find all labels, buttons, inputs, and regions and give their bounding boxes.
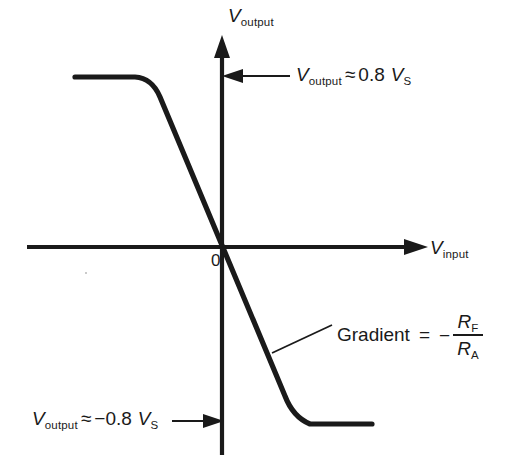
transfer-characteristic-figure: Voutput Vinput 0 Voutput≈0.8VS Voutput≈−… bbox=[0, 0, 516, 472]
gradient-denominator: RA bbox=[457, 336, 479, 358]
gradient-annotation: Gradient = − RF RA bbox=[337, 312, 483, 358]
y-axis-arrowhead bbox=[214, 35, 230, 58]
top-annotation-subscript: output bbox=[309, 75, 342, 87]
x-axis-symbol: V bbox=[430, 237, 443, 258]
bottom-annotation-value: −0.8 bbox=[94, 408, 132, 429]
gradient-denominator-symbol: R bbox=[457, 338, 471, 359]
x-axis-arrowhead bbox=[404, 239, 428, 255]
top-arrow-head bbox=[222, 69, 243, 83]
top-annotation-symbol: V bbox=[296, 64, 309, 85]
bottom-annotation-subscript: output bbox=[45, 419, 78, 431]
bottom-annotation-supply-subscript: S bbox=[151, 419, 159, 431]
top-annotation-approx: ≈ bbox=[342, 64, 358, 85]
top-annotation-supply-symbol: V bbox=[385, 64, 404, 85]
scan-speck bbox=[85, 272, 87, 274]
y-axis-subscript: output bbox=[241, 16, 274, 28]
x-axis-subscript: input bbox=[443, 248, 469, 260]
gradient-numerator-subscript: F bbox=[471, 322, 478, 334]
y-axis-label: Voutput bbox=[228, 6, 274, 25]
top-annotation-arrow bbox=[222, 69, 290, 83]
gradient-leader-line bbox=[272, 325, 332, 353]
origin-label: 0 bbox=[211, 252, 220, 269]
gradient-minus-sign: − bbox=[439, 326, 453, 345]
top-annotation-supply-subscript: S bbox=[403, 75, 411, 87]
gradient-numerator: RF bbox=[458, 312, 479, 334]
gradient-label: Gradient bbox=[337, 325, 410, 344]
gradient-denominator-subscript: A bbox=[471, 349, 479, 361]
bottom-annotation-arrow bbox=[172, 414, 224, 428]
x-axis-label: Vinput bbox=[430, 238, 469, 257]
gradient-numerator-symbol: R bbox=[458, 311, 472, 332]
gradient-fraction: RF RA bbox=[453, 312, 483, 358]
graph-canvas bbox=[0, 0, 516, 472]
bottom-annotation-approx: ≈ bbox=[78, 408, 94, 429]
top-annotation-value: 0.8 bbox=[358, 64, 384, 85]
y-axis-symbol: V bbox=[228, 5, 241, 26]
negative-saturation-annotation: Voutput≈−0.8VS bbox=[32, 409, 158, 428]
bottom-annotation-supply-symbol: V bbox=[132, 408, 151, 429]
positive-saturation-annotation: Voutput≈0.8VS bbox=[296, 65, 411, 84]
gradient-equals-sign: = bbox=[410, 325, 439, 344]
bottom-annotation-symbol: V bbox=[32, 408, 45, 429]
